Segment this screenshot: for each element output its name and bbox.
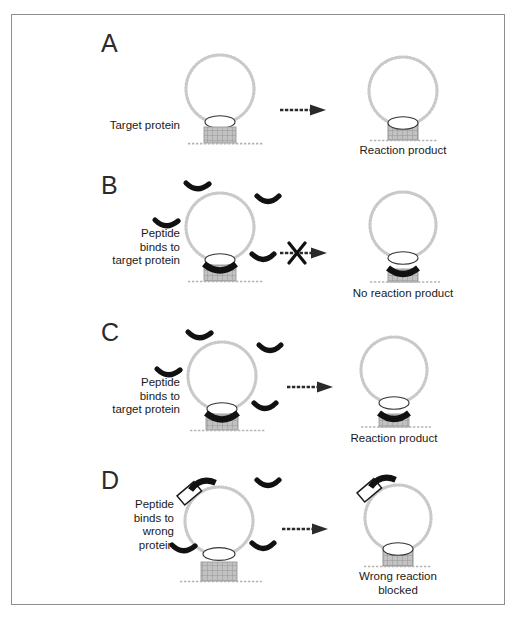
- peptide-arc-icon: [257, 196, 279, 202]
- peptide-arc-icon: [254, 403, 276, 409]
- figure-container: A Target protein: [0, 0, 523, 625]
- neck-ellipse-icon: [205, 116, 235, 128]
- peptide-arc-icon: [252, 543, 274, 549]
- vesicle-circle-icon: [186, 55, 254, 123]
- fused-cylinder-top: [383, 543, 413, 555]
- fused-cylinder-top: [388, 117, 418, 129]
- peptide-arc-icon: [257, 480, 279, 486]
- vesicle-circle-icon: [369, 57, 437, 125]
- peptide-arc-icon: [186, 183, 209, 189]
- peptide-arc-icon: [157, 369, 180, 375]
- vesicle-circle-icon: [370, 192, 436, 258]
- vesicle-circle-icon: [361, 337, 427, 403]
- neck-ellipse-icon: [379, 397, 409, 409]
- panel-d-right-group: [357, 475, 432, 566]
- panel-d-right-caption: Wrong reaction blocked: [337, 570, 459, 597]
- panel-a: A Target protein: [12, 15, 506, 165]
- panel-a-right-group: [369, 57, 437, 141]
- panel-c-right-group: [361, 337, 431, 427]
- protein-box-icon: [201, 562, 237, 581]
- panel-c-left-group: [157, 332, 281, 431]
- peptide-arc-icon: [155, 220, 178, 226]
- panel-b-arrow-blocked: [280, 243, 327, 263]
- panel-b-left-group: [155, 183, 279, 282]
- panel-c: C Peptide binds to target protein: [12, 310, 506, 455]
- panel-a-arrow: [280, 105, 326, 116]
- panel-a-left-group: [186, 55, 264, 144]
- panel-d-left-group: [172, 478, 279, 581]
- peptide-arc-icon: [188, 332, 211, 338]
- neck-ellipse-icon: [203, 548, 235, 561]
- panel-b: B Peptide binds to target protein: [12, 165, 506, 310]
- panel-b-right-caption: No reaction product: [324, 287, 482, 301]
- panel-c-right-caption: Reaction product: [333, 432, 455, 446]
- panel-b-right-group: [370, 192, 440, 282]
- peptide-arc-icon: [252, 254, 274, 260]
- figure-frame: A Target protein: [11, 14, 505, 605]
- peptide-arc-icon: [172, 545, 195, 551]
- vesicle-circle-icon: [365, 485, 431, 551]
- protein-box-icon: [204, 127, 236, 143]
- panel-a-right-caption: Reaction product: [342, 144, 464, 158]
- panel-d: D Peptide binds to wrong protein: [12, 450, 506, 606]
- vesicle-circle-icon: [188, 342, 256, 410]
- vesicle-circle-icon: [186, 193, 254, 261]
- panel-d-arrow: [282, 524, 328, 535]
- neck-ellipse-icon: [388, 252, 418, 264]
- panel-a-diagram: [12, 15, 506, 165]
- panel-c-arrow: [287, 382, 333, 393]
- peptide-arc-icon: [259, 345, 281, 351]
